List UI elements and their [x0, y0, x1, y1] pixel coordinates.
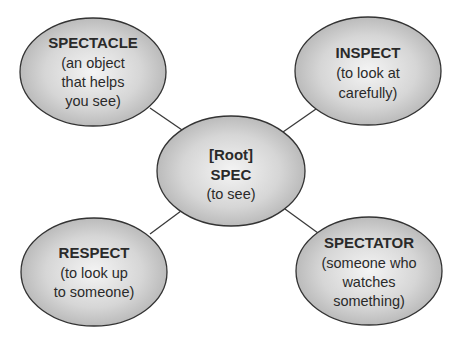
node-title: SPECTACLE: [48, 34, 138, 51]
node-title: RESPECT: [59, 244, 130, 261]
node-respect: RESPECT (to look up to someone): [21, 218, 167, 326]
node-title: INSPECT: [335, 44, 400, 61]
connector-respect: [150, 211, 181, 234]
node-desc-line: (to look up: [60, 265, 128, 281]
root-meaning: (to see): [206, 186, 255, 202]
node-desc-line: (to look at: [336, 65, 400, 81]
node-desc-line: to someone): [54, 284, 135, 300]
node-inspect: INSPECT (to look at carefully): [295, 17, 441, 125]
word-web-diagram: SPECTACLE (an object that helps you see)…: [0, 0, 463, 343]
node-desc-line: you see): [65, 93, 121, 109]
node-desc-line: watches: [341, 274, 395, 290]
node-spectacle: SPECTACLE (an object that helps you see): [20, 18, 166, 126]
connector-spectacle: [150, 108, 185, 132]
root-label: [Root]: [209, 146, 253, 163]
node-spectator: SPECTATOR (someone who watches something…: [296, 217, 442, 325]
connector-spectator: [285, 209, 318, 233]
node-desc-line: (someone who: [321, 255, 416, 271]
node-root-spec: [Root] SPEC (to see): [157, 116, 305, 226]
node-desc-line: (an object: [61, 55, 125, 71]
node-desc-line: something): [333, 293, 405, 309]
node-title: SPECTATOR: [324, 234, 414, 251]
node-desc-line: carefully): [339, 85, 398, 101]
root-word: SPEC: [211, 166, 252, 183]
node-desc-line: that helps: [62, 74, 125, 90]
connector-inspect: [283, 109, 316, 132]
